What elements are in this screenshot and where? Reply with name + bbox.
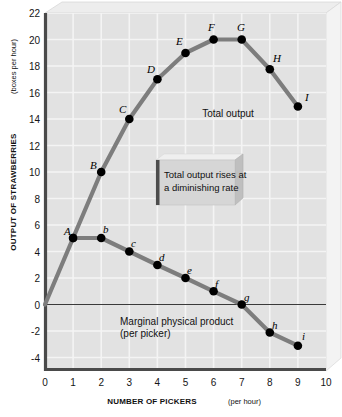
y-tick: 18 (29, 61, 41, 72)
y-tick: 22 (29, 8, 41, 19)
point-label-h: h (272, 319, 278, 331)
y-tick: 12 (29, 141, 41, 152)
y-tick: 8 (34, 194, 40, 205)
y-axis-title-group: OUTPUT OF STRAWBERRIES (boxes per hour) (9, 38, 18, 250)
point-label-i: i (302, 330, 305, 342)
point-label-E: E (175, 35, 183, 47)
y-tick: 20 (29, 35, 41, 46)
point-label-e: e (187, 264, 192, 276)
x-tick: 3 (127, 377, 133, 388)
data-point (294, 102, 303, 111)
point-label-c: c (131, 237, 136, 249)
strawberry-output-chart: A B C D E F G H I Total output b c (0, 0, 342, 417)
data-point (125, 115, 134, 124)
y-tick: 0 (34, 300, 40, 311)
callout-accent-bar (156, 160, 160, 205)
point-label-B: B (90, 159, 97, 171)
x-axis-title: NUMBER OF PICKERS (107, 397, 197, 406)
y-tick: -4 (31, 353, 40, 364)
point-label-G: G (237, 21, 245, 33)
mpp-series-label: Marginal physical product (120, 316, 234, 327)
callout-bevel-top (156, 154, 243, 160)
point-label-C: C (119, 103, 127, 115)
x-tick: 0 (42, 377, 48, 388)
y-tick: 16 (29, 88, 41, 99)
y-axis-title-sub: (boxes per hour) (9, 38, 18, 94)
bevel-top-face (45, 2, 341, 13)
x-tick: 8 (267, 377, 273, 388)
x-tick: 4 (155, 377, 161, 388)
x-tick: 7 (239, 377, 245, 388)
point-label-d: d (159, 251, 165, 263)
x-tick: 6 (211, 377, 217, 388)
figure-panel: A B C D E F G H I Total output b c (0, 0, 342, 417)
data-point (209, 35, 218, 44)
data-point (69, 234, 78, 243)
point-label-b: b (103, 223, 109, 235)
x-tick: 10 (320, 377, 332, 388)
x-axis-title-group: NUMBER OF PICKERS (per hour) (107, 397, 261, 406)
callout-annotation: Total output rises at a diminishing rate (156, 154, 247, 205)
x-tick: 5 (183, 377, 189, 388)
y-tick: 6 (34, 220, 40, 231)
callout-line-2: a diminishing rate (164, 182, 238, 193)
y-tick: 2 (34, 273, 40, 284)
x-tick: 2 (98, 377, 104, 388)
x-axis-title-sub: (per hour) (228, 397, 261, 406)
x-tick: 1 (70, 377, 76, 388)
y-tick: 10 (29, 167, 41, 178)
x-tick: 9 (295, 377, 301, 388)
y-axis-title: OUTPUT OF STRAWBERRIES (9, 133, 18, 251)
point-label-A: A (63, 225, 71, 237)
point-label-H: H (272, 52, 282, 64)
point-label-F: F (207, 21, 215, 33)
data-point (294, 341, 303, 350)
callout-line-1: Total output rises at (164, 169, 247, 180)
y-tick: 4 (34, 247, 40, 258)
point-label-D: D (146, 63, 155, 75)
mpp-series-label-sub: (per picker) (120, 328, 171, 339)
y-tick: -2 (31, 326, 40, 337)
data-point (97, 168, 106, 177)
y-tick: 14 (29, 114, 41, 125)
data-point (266, 65, 275, 74)
data-point (153, 75, 162, 84)
point-label-g: g (244, 291, 250, 303)
data-point (237, 35, 246, 44)
total-output-series-label: Total output (202, 108, 254, 119)
bevel-right-face (326, 2, 341, 371)
data-point (181, 49, 190, 58)
